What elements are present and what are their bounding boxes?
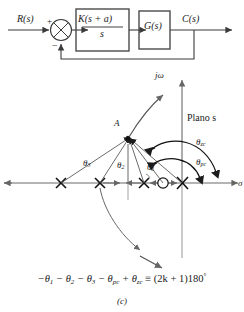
theta2-label: θ2 <box>117 160 124 170</box>
eq-rhs: ≡ (2k + 1)180 <box>145 273 203 284</box>
figure-root-locus-angle-criterion: R(s) + − K(s + a) s G(s) C(s) jω σ Plano… <box>0 0 244 312</box>
test-point-label: A <box>114 118 120 128</box>
figure-caption: (c) <box>0 296 244 306</box>
eq-t3s: 3 <box>92 278 95 285</box>
theta2-sub: 2 <box>121 164 124 170</box>
vector-theta1 <box>130 141 144 183</box>
eq-t4s: pc <box>113 278 120 285</box>
locus-branch-lower <box>100 188 140 250</box>
eq-t2s: 2 <box>71 278 74 285</box>
output-label: C(s) <box>182 13 199 24</box>
eq-degree: ° <box>203 272 206 281</box>
eq-t3: − θ <box>77 273 92 284</box>
controller-numerator-label: K(s + a) <box>78 13 112 24</box>
summing-minus-label: − <box>52 40 58 51</box>
eq-t2: − θ <box>56 273 71 284</box>
arc-theta1 <box>146 174 150 178</box>
eq-t5: + θ <box>122 273 137 284</box>
angle-criterion-equation: −θ1 − θ2 − θ3 − θpc + θzc ≡ (2k + 1)180° <box>0 272 244 285</box>
plane-label: Plano s <box>187 112 216 123</box>
theta3-label: θ3 <box>83 158 90 168</box>
figure-svg <box>0 0 244 312</box>
theta-zc-sub: zc <box>200 141 205 147</box>
eq-t4: − θ <box>98 273 113 284</box>
theta-zc-label: θzc <box>196 137 205 147</box>
eq-t1s: 1 <box>50 278 53 285</box>
plant-label: G(s) <box>144 20 162 31</box>
theta1-label: θ1 <box>147 162 154 172</box>
input-label: R(s) <box>17 13 34 24</box>
feedback-path <box>61 30 194 59</box>
equation-pointer <box>140 256 162 268</box>
theta3-sub: 3 <box>87 162 90 168</box>
eq-t1: −θ <box>38 273 50 284</box>
small-angle-arcs <box>146 174 150 178</box>
plane-label-text: Plano s <box>187 112 216 123</box>
locus-branch-upper <box>129 95 163 137</box>
splane-group <box>4 80 238 268</box>
theta-pc-sub: pc <box>200 161 206 167</box>
real-axis-label: σ <box>238 178 242 188</box>
controller-denominator-label: s <box>100 28 104 39</box>
summing-plus-label: + <box>47 16 52 26</box>
theta-pc-label: θpc <box>196 157 206 167</box>
imag-axis-label: jω <box>155 70 164 80</box>
eq-t5s: zc <box>137 278 143 285</box>
theta1-sub: 1 <box>151 166 154 172</box>
